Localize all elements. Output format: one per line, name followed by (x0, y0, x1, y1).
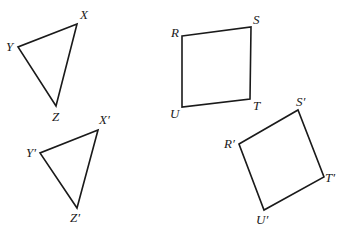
vertex-label-z: Z (52, 109, 60, 124)
quadrilateral-rstu-prime: R′ S′ T′ U′ (223, 94, 335, 226)
vertex-label-r: R (170, 25, 179, 40)
transformation-diagram: X Y Z R S T U X′ Y′ Z′ R′ S′ T′ U′ (0, 0, 342, 226)
vertex-label-u: U (170, 106, 181, 121)
quadrilateral-rstu-prime-outline (239, 110, 324, 210)
vertex-label-u-prime: U′ (256, 212, 268, 226)
vertex-label-x-prime: X′ (98, 112, 110, 127)
triangle-xyz-prime-outline (40, 130, 98, 208)
triangle-xyz: X Y Z (6, 7, 89, 124)
triangle-xyz-outline (18, 24, 77, 106)
quadrilateral-rstu-outline (182, 27, 251, 107)
vertex-label-s-prime: S′ (296, 94, 306, 109)
vertex-label-r-prime: R′ (223, 136, 235, 151)
vertex-label-z-prime: Z′ (70, 210, 80, 225)
vertex-label-t-prime: T′ (325, 170, 335, 185)
vertex-label-y: Y (6, 39, 15, 54)
vertex-label-y-prime: Y′ (26, 145, 36, 160)
quadrilateral-rstu: R S T U (170, 12, 261, 121)
vertex-label-s: S (253, 12, 260, 27)
triangle-xyz-prime: X′ Y′ Z′ (26, 112, 110, 225)
vertex-label-t: T (253, 98, 261, 113)
vertex-label-x: X (79, 7, 89, 22)
